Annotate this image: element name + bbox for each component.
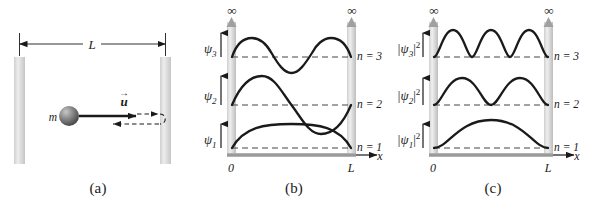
- wavefunction-curve-n1: [232, 124, 351, 148]
- level-label-n3-text: n = 3: [357, 50, 382, 62]
- x-tick-L: L: [544, 161, 552, 175]
- level-label-n1-text: n = 1: [554, 141, 579, 153]
- left-potential-wall: [227, 22, 236, 157]
- right-potential-wall: [544, 22, 553, 157]
- curve-label-psi2: ψ2: [204, 88, 217, 106]
- x-tick-L: L: [347, 161, 355, 175]
- probability-density-curve-n3: [434, 30, 548, 57]
- probability-density-curve-n1: [434, 120, 548, 148]
- left-wall: [14, 57, 25, 164]
- level-label-n3: n = 3: [357, 50, 382, 62]
- left-potential-wall: [429, 22, 438, 157]
- dashed-outgoing-arrowhead: [113, 121, 121, 127]
- panel-a-graphic: L m → u: [0, 0, 196, 201]
- particle-sphere: [59, 106, 79, 126]
- curve-label-psi3: ψ3: [204, 41, 217, 59]
- panel-b-caption: (b): [196, 180, 392, 197]
- x-axis-floor: [429, 153, 553, 157]
- right-wall-infinity-label: ∞: [347, 3, 356, 18]
- wavefunction-curve-n3: [232, 38, 351, 73]
- x-tick-0: 0: [228, 161, 234, 175]
- level-label-n2: n = 2: [554, 98, 579, 110]
- left-wall-infinity-label: ∞: [227, 3, 236, 18]
- level-label-n1-text: n = 1: [357, 141, 382, 153]
- velocity-label-u: u: [120, 94, 127, 109]
- dimension-label-L: L: [87, 37, 95, 52]
- panel-c-graphic: ∞ ∞ x 0 L n = 1 |ψ1|2: [392, 0, 594, 201]
- panel-c-caption: (c): [392, 180, 594, 197]
- panel-b: ∞ ∞ x 0 L n = 1 ψ1: [196, 0, 392, 201]
- mass-label-m: m: [49, 111, 57, 123]
- level-label-n2: n = 2: [357, 98, 382, 110]
- level-label-n2-text: n = 2: [554, 98, 579, 110]
- panel-a: L m → u (a): [0, 0, 196, 201]
- right-potential-wall: [347, 22, 356, 157]
- curve-label-psi1: ψ1: [204, 132, 217, 150]
- x-axis-floor: [227, 153, 356, 157]
- panel-a-caption: (a): [0, 180, 196, 197]
- curve-label-psi2-squared: |ψ2|2: [397, 87, 420, 106]
- panel-c: ∞ ∞ x 0 L n = 1 |ψ1|2: [392, 0, 594, 201]
- level-label-n2-text: n = 2: [357, 98, 382, 110]
- x-tick-0: 0: [430, 161, 436, 175]
- probability-density-curve-n2: [434, 78, 548, 105]
- level-label-n3: n = 3: [554, 50, 579, 62]
- right-wall-infinity-label: ∞: [544, 3, 553, 18]
- curve-label-psi3-squared: |ψ3|2: [397, 40, 420, 59]
- level-label-n1: n = 1: [357, 141, 382, 153]
- right-wall: [160, 57, 171, 164]
- left-wall-infinity-label: ∞: [429, 3, 438, 18]
- curve-label-psi1-squared: |ψ1|2: [397, 131, 420, 150]
- figure-root: L m → u (a): [0, 0, 594, 201]
- level-label-n3-text: n = 3: [554, 50, 579, 62]
- panel-b-graphic: ∞ ∞ x 0 L n = 1 ψ1: [196, 0, 392, 201]
- level-label-n1: n = 1: [554, 141, 579, 153]
